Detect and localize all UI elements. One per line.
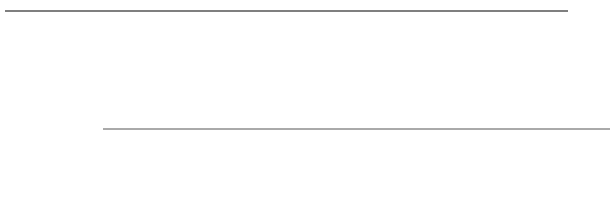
fsk-waveform-figure xyxy=(0,0,615,218)
waveform-canvas xyxy=(0,0,615,218)
scan-artifact-row xyxy=(0,0,615,6)
